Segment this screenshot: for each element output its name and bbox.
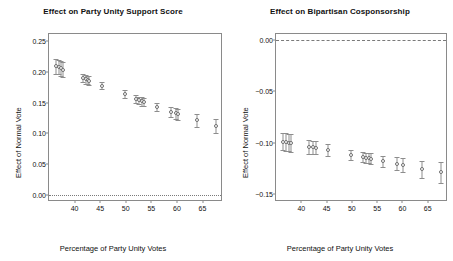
scatter-marker — [395, 162, 399, 166]
scatter-marker — [100, 84, 104, 88]
scatter-marker — [401, 163, 405, 167]
y-tick-label: 0.15 — [32, 99, 46, 106]
error-bar-cap-lower — [326, 156, 331, 157]
y-axis-label-right: Effect of Normal Vote — [241, 107, 250, 178]
x-tick-label: 45 — [96, 205, 104, 212]
error-bar-cap-lower — [176, 120, 181, 121]
panel-party-unity-support: Effect on Party Unity Support Score 0.00… — [0, 0, 226, 261]
x-tick-mark — [74, 200, 75, 203]
error-bar-cap-lower — [169, 117, 174, 118]
error-bar-cap-lower — [61, 77, 66, 78]
error-bar-cap-lower — [400, 172, 405, 173]
scatter-marker — [307, 145, 311, 149]
y-tick-label: −0.10 — [255, 139, 273, 146]
error-bar-cap-upper — [381, 156, 386, 157]
scatter-marker — [155, 105, 159, 109]
x-axis-label-left: Percentage of Party Unity Votes — [0, 244, 226, 253]
x-tick-mark — [351, 200, 352, 203]
error-bar-cap-upper — [61, 62, 66, 63]
error-bar-cap-lower — [313, 154, 318, 155]
y-tick-mark — [46, 41, 49, 42]
error-bar-cap-upper — [87, 76, 92, 77]
error-bar-cap-upper — [154, 103, 159, 104]
error-bar-cap-upper — [400, 158, 405, 159]
panel-title-right: Effect on Bipartisan Cosponsorship — [227, 7, 453, 16]
error-bar-cap-lower — [394, 170, 399, 171]
error-bar-cap-lower — [142, 106, 147, 107]
scatter-marker — [195, 118, 199, 122]
error-bar-cap-lower — [87, 85, 92, 86]
plot-area-left: 0.000.050.100.150.200.25404550556065 — [49, 34, 221, 200]
y-tick-mark — [273, 91, 276, 92]
error-bar-cap-upper — [313, 141, 318, 142]
y-tick-label: 0.00 — [259, 37, 273, 44]
scatter-marker — [381, 159, 385, 163]
panel-title-left: Effect on Party Unity Support Score — [0, 7, 226, 16]
x-tick-label: 55 — [147, 205, 155, 212]
x-tick-mark — [202, 200, 203, 203]
x-tick-label: 65 — [424, 205, 432, 212]
error-bar-cap-upper — [142, 98, 147, 99]
x-tick-label: 60 — [399, 205, 407, 212]
error-bar-cap-lower — [213, 133, 218, 134]
scatter-marker — [176, 112, 180, 116]
x-tick-label: 50 — [348, 205, 356, 212]
x-tick-mark — [151, 200, 152, 203]
x-tick-mark — [100, 200, 101, 203]
scatter-marker — [369, 157, 373, 161]
plot-frame-right: −0.15−0.10−0.050.00404550556065 — [275, 33, 447, 201]
error-bar-cap-lower — [289, 152, 294, 153]
scatter-marker — [439, 170, 443, 174]
plot-frame-left: 0.000.050.100.150.200.25404550556065 — [48, 33, 222, 201]
y-tick-label: 0.10 — [32, 130, 46, 137]
scatter-marker — [169, 110, 173, 114]
y-tick-label: −0.05 — [255, 88, 273, 95]
error-bar-cap-upper — [213, 119, 218, 120]
error-bar-cap-upper — [394, 157, 399, 158]
error-bar-cap-upper — [176, 109, 181, 110]
scatter-marker — [214, 124, 218, 128]
scatter-marker — [87, 79, 91, 83]
scatter-marker — [289, 141, 293, 145]
y-tick-mark — [46, 163, 49, 164]
y-tick-mark — [273, 193, 276, 194]
x-tick-label: 65 — [199, 205, 207, 212]
error-bar-cap-lower — [420, 178, 425, 179]
y-tick-label: 0.00 — [32, 191, 46, 198]
error-bar-cap-upper — [349, 150, 354, 151]
scatter-marker — [61, 68, 65, 72]
x-tick-label: 45 — [323, 205, 331, 212]
y-tick-label: −0.15 — [255, 190, 273, 197]
zero-reference-line — [276, 40, 446, 41]
y-tick-label: 0.25 — [32, 38, 46, 45]
x-tick-mark — [176, 200, 177, 203]
y-tick-label: 0.05 — [32, 160, 46, 167]
error-bar-cap-upper — [439, 162, 444, 163]
y-tick-mark — [273, 142, 276, 143]
error-bar-cap-lower — [154, 111, 159, 112]
error-bar-cap-lower — [194, 127, 199, 128]
error-bar-cap-upper — [420, 161, 425, 162]
error-bar-cap-lower — [439, 183, 444, 184]
x-tick-mark — [427, 200, 428, 203]
scatter-marker — [326, 148, 330, 152]
error-bar-cap-upper — [194, 114, 199, 115]
error-bar-cap-lower — [381, 167, 386, 168]
x-tick-label: 55 — [373, 205, 381, 212]
error-bar-cap-lower — [99, 89, 104, 90]
scatter-marker — [349, 153, 353, 157]
x-tick-mark — [377, 200, 378, 203]
x-axis-label-right: Percentage of Party Unity Votes — [227, 244, 453, 253]
error-bar-cap-lower — [349, 160, 354, 161]
y-tick-label: 0.20 — [32, 69, 46, 76]
panel-bipartisan-cosponsorship: Effect on Bipartisan Cosponsorship −0.15… — [227, 0, 453, 261]
figure-two-panel-scatter: Effect on Party Unity Support Score 0.00… — [0, 0, 453, 261]
x-tick-mark — [402, 200, 403, 203]
x-tick-label: 50 — [122, 205, 130, 212]
y-tick-mark — [46, 102, 49, 103]
error-bar-cap-lower — [369, 164, 374, 165]
scatter-marker — [314, 146, 318, 150]
error-bar-cap-lower — [122, 98, 127, 99]
x-tick-mark — [301, 200, 302, 203]
x-tick-mark — [326, 200, 327, 203]
